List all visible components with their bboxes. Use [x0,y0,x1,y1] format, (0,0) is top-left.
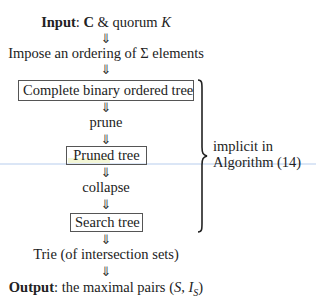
paren-close: ) [198,279,203,295]
input-connector: & quorum [94,14,161,30]
output-line: Output: the maximal pairs (S, IS) [0,279,212,301]
down-arrow-icon: ⇓ [96,133,116,147]
down-arrow-icon: ⇓ [96,233,116,247]
output-text: the maximal pairs [62,279,170,295]
output-label: Output [9,279,54,295]
input-symbol-c: C [83,14,93,30]
down-arrow-icon: ⇓ [96,32,116,46]
step-trie: Trie (of intersection sets) [0,246,212,262]
down-arrow-icon: ⇓ [96,101,116,115]
step-collapse: collapse [0,179,212,195]
box-pruned-tree: Pruned tree [66,146,147,165]
right-brace-icon [196,79,210,233]
input-label: Input [41,14,76,30]
annotation-line-1: implicit in [213,138,301,154]
down-arrow-icon: ⇓ [96,265,116,279]
input-line: Input: C & quorum K [0,14,212,30]
box-complete-binary-tree: Complete binary ordered tree [18,80,194,101]
box-search-tree: Search tree [70,213,143,232]
annotation-line-2: Algorithm (14) [213,154,301,170]
brace-annotation: implicit in Algorithm (14) [213,138,301,170]
down-arrow-icon: ⇓ [96,166,116,180]
down-arrow-icon: ⇓ [96,198,116,212]
step-prune: prune [0,114,212,130]
output-separator: : [54,279,62,295]
down-arrow-icon: ⇓ [96,63,116,77]
step-impose-ordering: Impose an ordering of Σ elements [0,45,212,61]
input-symbol-k: K [161,14,171,30]
